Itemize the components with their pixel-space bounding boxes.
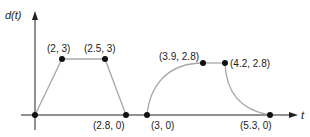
fall-arc bbox=[225, 63, 270, 115]
point-2-3 bbox=[59, 56, 65, 62]
x-axis-label: t bbox=[301, 109, 305, 121]
point-3-0 bbox=[144, 112, 150, 118]
y-axis-label: d(t) bbox=[5, 9, 22, 21]
trapezoid-segment bbox=[35, 59, 126, 115]
y-axis-arrow-icon bbox=[32, 11, 38, 20]
point-2.8-0 bbox=[123, 112, 129, 118]
label-3.9-2.8: (3.9, 2.8) bbox=[159, 51, 199, 62]
point-3.9-2.8 bbox=[200, 60, 206, 66]
label-5.3-0: (5.3, 0) bbox=[240, 120, 272, 131]
label-2.8-0: (2.8, 0) bbox=[93, 120, 125, 131]
point-origin bbox=[32, 112, 38, 118]
x-axis-arrow-icon bbox=[289, 112, 298, 118]
rise-arc bbox=[147, 63, 203, 115]
label-3-0: (3, 0) bbox=[151, 120, 174, 131]
point-5.3-0 bbox=[267, 112, 273, 118]
point-2.5-3 bbox=[102, 56, 108, 62]
label-4.2-2.8: (4.2, 2.8) bbox=[230, 58, 270, 69]
label-2.5-3: (2.5, 3) bbox=[84, 43, 116, 54]
label-2-3: (2, 3) bbox=[47, 43, 70, 54]
chart-canvas: d(t) t (2, 3) (2.5, 3) (2.8, 0) (3, 0) (… bbox=[0, 0, 310, 137]
point-4.2-2.8 bbox=[222, 60, 228, 66]
